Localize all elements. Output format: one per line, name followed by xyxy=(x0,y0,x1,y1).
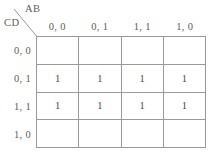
kmap-cell[interactable] xyxy=(122,120,164,148)
kmap-cell[interactable]: 1 xyxy=(164,93,206,121)
row-header-3: 1, 0 xyxy=(0,120,36,148)
kmap-cell[interactable]: 1 xyxy=(164,65,206,93)
kmap-cell[interactable] xyxy=(122,37,164,65)
kmap-cell[interactable] xyxy=(164,37,206,65)
row-header-2: 1, 1 xyxy=(0,92,36,120)
kmap-cell[interactable]: 1 xyxy=(79,93,121,121)
column-header-row: 0, 0 0, 1 1, 1 1, 0 xyxy=(36,17,206,36)
kmap-cell[interactable]: 1 xyxy=(37,93,79,121)
column-header-1: 0, 1 xyxy=(79,17,122,36)
kmap-row xyxy=(37,120,206,148)
kmap-cell[interactable]: 1 xyxy=(122,93,164,121)
row-header-column: 0, 0 0, 1 1, 1 1, 0 xyxy=(0,36,36,148)
column-header-0: 0, 0 xyxy=(36,17,79,36)
kmap-row: 1 1 1 1 xyxy=(37,65,206,93)
row-header-0: 0, 0 xyxy=(0,36,36,64)
kmap-cell[interactable] xyxy=(37,37,79,65)
kmap-cell[interactable]: 1 xyxy=(79,65,121,93)
kmap-cell[interactable] xyxy=(37,120,79,148)
column-header-3: 1, 0 xyxy=(164,17,207,36)
kmap-cell[interactable]: 1 xyxy=(122,65,164,93)
variable-label-cd: CD xyxy=(4,17,19,28)
variable-label-ab: AB xyxy=(25,3,40,14)
kmap-cell[interactable] xyxy=(79,120,121,148)
kmap-row: 1 1 1 1 xyxy=(37,93,206,121)
row-header-1: 0, 1 xyxy=(0,64,36,92)
kmap-grid: 1 1 1 1 1 1 1 1 xyxy=(36,36,206,148)
karnaugh-map: AB CD 0, 0 0, 1 1, 1 1, 0 0, 0 0, 1 1, 1… xyxy=(0,0,213,155)
kmap-cell[interactable] xyxy=(79,37,121,65)
kmap-cell[interactable] xyxy=(164,120,206,148)
kmap-cell[interactable]: 1 xyxy=(37,65,79,93)
column-header-2: 1, 1 xyxy=(121,17,164,36)
kmap-row xyxy=(37,37,206,65)
